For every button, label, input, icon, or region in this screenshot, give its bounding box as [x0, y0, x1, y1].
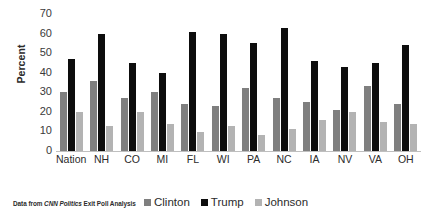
legend-swatch-clinton	[144, 199, 151, 206]
y-tick-60: 60	[26, 28, 52, 39]
source-note-prefix: Data from	[13, 200, 44, 207]
exit-poll-bar-chart: Percent 010203040506070 NationNHCOMIFLWI…	[0, 0, 429, 223]
bar-johnson	[137, 112, 144, 151]
bar-group	[178, 14, 208, 151]
x-axis-line	[56, 151, 421, 152]
bar-trump	[250, 43, 257, 151]
bar-johnson	[197, 132, 204, 151]
x-tick-nc: NC	[269, 153, 299, 166]
legend-swatch-johnson	[255, 199, 262, 206]
bar-group	[360, 14, 390, 151]
bar-clinton	[333, 110, 340, 151]
bar-trump	[311, 61, 318, 151]
source-note-suffix: Exit Poll Analysis	[82, 200, 136, 207]
y-tick-40: 40	[26, 67, 52, 78]
legend-item-johnson[interactable]: Johnson	[255, 196, 308, 209]
bar-group	[147, 14, 177, 151]
chart-footer: Data from CNN Politics Exit Poll Analysi…	[0, 196, 429, 218]
bar-clinton	[121, 98, 128, 151]
bar-trump	[189, 32, 196, 151]
bar-trump	[281, 28, 288, 151]
bar-group	[117, 14, 147, 151]
x-tick-oh: OH	[391, 153, 421, 166]
bar-trump	[220, 34, 227, 151]
bar-group	[208, 14, 238, 151]
source-note: Data from CNN Politics Exit Poll Analysi…	[13, 199, 136, 208]
x-tick-nh: NH	[86, 153, 116, 166]
x-tick-nation: Nation	[56, 153, 86, 166]
bar-clinton	[364, 86, 371, 151]
source-note-emphasis: CNN Politics	[44, 200, 82, 207]
bar-clinton	[394, 104, 401, 151]
x-tick-wi: WI	[208, 153, 238, 166]
y-tick-0: 0	[26, 145, 52, 156]
bar-group	[299, 14, 329, 151]
y-tick-50: 50	[26, 47, 52, 58]
bar-johnson	[106, 126, 113, 151]
bar-trump	[341, 67, 348, 151]
bar-clinton	[273, 98, 280, 151]
bar-johnson	[167, 124, 174, 151]
y-tick-10: 10	[26, 125, 52, 136]
x-tick-nv: NV	[330, 153, 360, 166]
bar-group	[391, 14, 421, 151]
bar-johnson	[258, 135, 265, 151]
legend-swatch-trump	[201, 199, 208, 206]
bar-trump	[372, 63, 379, 151]
bar-group	[269, 14, 299, 151]
bar-trump	[68, 59, 75, 151]
bar-johnson	[319, 120, 326, 151]
bar-clinton	[90, 81, 97, 151]
legend-label-johnson: Johnson	[265, 196, 308, 209]
bar-johnson	[76, 112, 83, 151]
y-tick-70: 70	[26, 8, 52, 19]
bar-group	[330, 14, 360, 151]
bar-johnson	[228, 126, 235, 151]
legend-item-trump[interactable]: Trump	[201, 196, 244, 209]
x-tick-ia: IA	[299, 153, 329, 166]
bar-group	[86, 14, 116, 151]
bar-group	[239, 14, 269, 151]
legend-label-trump: Trump	[211, 196, 244, 209]
x-tick-pa: PA	[239, 153, 269, 166]
bar-clinton	[60, 92, 67, 151]
bar-trump	[402, 45, 409, 151]
chart-legend: ClintonTrumpJohnson	[144, 196, 308, 209]
bar-johnson	[410, 124, 417, 151]
bar-trump	[129, 63, 136, 151]
bar-johnson	[289, 129, 296, 151]
x-tick-fl: FL	[178, 153, 208, 166]
y-tick-30: 30	[26, 86, 52, 97]
x-tick-va: VA	[360, 153, 390, 166]
bar-clinton	[303, 102, 310, 151]
x-axis-tick-labels: NationNHCOMIFLWIPANCIANVVAOH	[56, 153, 421, 169]
bar-clinton	[212, 106, 219, 151]
bar-clinton	[242, 88, 249, 151]
bar-group	[56, 14, 86, 151]
bars-container	[56, 14, 421, 151]
x-tick-mi: MI	[147, 153, 177, 166]
y-axis-tick-labels: 010203040506070	[26, 0, 52, 170]
y-tick-20: 20	[26, 106, 52, 117]
bar-johnson	[380, 122, 387, 151]
bar-trump	[159, 73, 166, 151]
bar-johnson	[349, 112, 356, 151]
bar-trump	[98, 34, 105, 151]
chart-plot-region: Percent 010203040506070 NationNHCOMIFLWI…	[0, 0, 429, 170]
bar-clinton	[151, 92, 158, 151]
x-tick-co: CO	[117, 153, 147, 166]
bar-clinton	[181, 104, 188, 151]
legend-item-clinton[interactable]: Clinton	[144, 196, 190, 209]
legend-label-clinton: Clinton	[154, 196, 190, 209]
